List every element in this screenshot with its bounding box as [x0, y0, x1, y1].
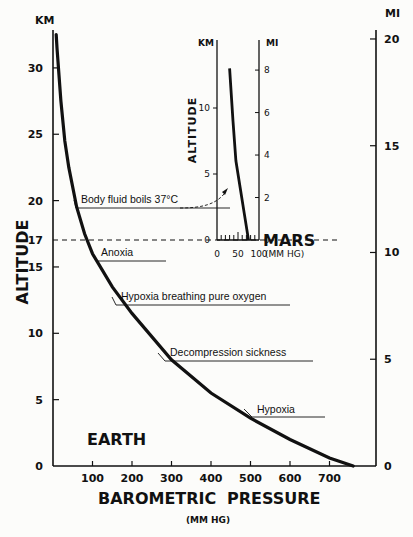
y-tick-label-mi: 0	[384, 460, 392, 473]
annotation: Hypoxia breathing pure oxygen	[112, 290, 290, 305]
annotation-label: Anoxia	[101, 246, 133, 258]
inset-y-tick-label-mi: 2	[264, 193, 270, 203]
inset-y-tick-label-km: 5	[204, 169, 210, 179]
annotation: Body fluid boils 37°C	[74, 193, 230, 208]
right-axis-units: MI	[385, 7, 400, 20]
annotation: Hypoxia	[244, 403, 325, 417]
altitude-pressure-chart: 1002003004005006007000510151720253005101…	[0, 0, 413, 537]
annotation-label: Decompression sickness	[170, 346, 286, 358]
x-tick-label: 100	[81, 472, 104, 485]
inset-right-units: MI	[266, 38, 278, 48]
x-axis-title-part2: PRESSURE	[227, 489, 321, 508]
x-tick-label: 300	[160, 472, 183, 485]
annotation-label: Body fluid boils 37°C	[81, 193, 178, 205]
x-tick-label: 600	[279, 472, 302, 485]
inset-x-tick-label: 0	[214, 249, 220, 259]
y-tick-label-km: 10	[28, 327, 44, 340]
annotation-label: Hypoxia	[257, 403, 295, 415]
x-tick-label: 700	[318, 472, 341, 485]
annotation: Decompression sickness	[158, 346, 313, 361]
y-tick-label-mi: 5	[384, 353, 392, 366]
inset-y-tick-label-km: 0	[204, 235, 210, 245]
mars-inset: 050100051002468 KM MI ALTITUDE (MM HG)	[180, 38, 304, 259]
inset-y-tick-label-km: 10	[199, 103, 211, 113]
inset-y-tick-label-mi: 4	[264, 150, 270, 160]
y-tick-label-km: 25	[28, 128, 43, 141]
x-tick-label: 500	[239, 472, 262, 485]
annotation-label: Hypoxia breathing pure oxygen	[121, 290, 267, 302]
x-axis-title-part1: BAROMETRIC	[98, 489, 216, 508]
y-tick-label-mi: 15	[384, 140, 399, 153]
earth-label: EARTH	[87, 430, 146, 449]
inset-left-units: KM	[198, 38, 214, 48]
inset-y-title: ALTITUDE	[186, 97, 199, 163]
annotation: Anoxia	[92, 246, 166, 261]
inset-y-tick-label-mi: 6	[264, 108, 270, 118]
arrow-head-icon	[222, 188, 228, 195]
x-axis-units: (MM HG)	[186, 515, 230, 525]
inset-y-tick-label-mi: 8	[264, 65, 270, 75]
y-tick-label-km: 20	[28, 195, 44, 208]
mars-label: MARS	[263, 231, 315, 250]
mars-pressure-curve	[230, 68, 249, 240]
y-tick-label-km: 5	[35, 394, 43, 407]
inset-x-units: (MM HG)	[265, 249, 304, 259]
y-tick-label-mi: 20	[384, 33, 400, 46]
y-axis-title: ALTITUDE	[13, 220, 32, 305]
y-tick-label-mi: 10	[384, 246, 400, 259]
x-tick-label: 200	[121, 472, 144, 485]
left-axis-units: KM	[35, 14, 54, 27]
y-tick-label-km: 0	[35, 460, 43, 473]
y-tick-label-km: 30	[28, 62, 44, 75]
inset-x-tick-label: 50	[232, 249, 244, 259]
inset-y-tick-label-mi: 0	[264, 235, 270, 245]
x-tick-label: 400	[200, 472, 223, 485]
